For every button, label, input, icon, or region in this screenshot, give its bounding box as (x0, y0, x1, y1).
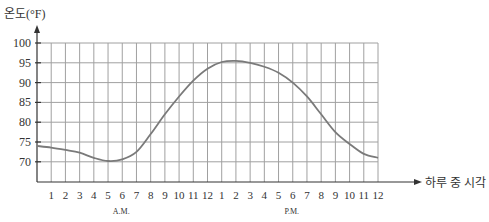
svg-text:90: 90 (19, 76, 31, 90)
svg-text:6: 6 (290, 189, 296, 201)
grid-lines (37, 43, 378, 182)
svg-text:80: 80 (19, 115, 31, 129)
svg-text:11: 11 (358, 189, 369, 201)
svg-text:5: 5 (105, 189, 111, 201)
svg-text:3: 3 (77, 189, 83, 201)
svg-text:10: 10 (174, 189, 186, 201)
y-axis-label: 온도(°F) (4, 7, 45, 21)
svg-text:11: 11 (188, 189, 199, 201)
svg-text:75: 75 (19, 135, 31, 149)
svg-text:1: 1 (219, 189, 225, 201)
svg-text:9: 9 (333, 189, 339, 201)
svg-text:70: 70 (19, 155, 31, 169)
temperature-chart: 7075808590951001234567891011121234567891… (0, 0, 489, 222)
svg-text:8: 8 (148, 189, 154, 201)
svg-text:7: 7 (134, 189, 140, 201)
x-axis-label: 하루 중 시각 (425, 176, 486, 190)
svg-text:A.M.: A.M. (113, 207, 130, 216)
svg-text:85: 85 (19, 95, 31, 109)
svg-text:4: 4 (91, 189, 97, 201)
svg-text:2: 2 (233, 189, 239, 201)
svg-text:4: 4 (262, 189, 268, 201)
svg-text:95: 95 (19, 56, 31, 70)
svg-text:1: 1 (48, 189, 54, 201)
svg-text:10: 10 (344, 189, 356, 201)
svg-text:8: 8 (318, 189, 324, 201)
svg-text:P.M.: P.M. (284, 207, 299, 216)
svg-text:12: 12 (202, 189, 213, 201)
svg-text:7: 7 (304, 189, 310, 201)
svg-text:3: 3 (247, 189, 253, 201)
svg-text:2: 2 (63, 189, 69, 201)
chart-canvas: 7075808590951001234567891011121234567891… (0, 0, 489, 222)
svg-text:6: 6 (120, 189, 126, 201)
svg-text:9: 9 (162, 189, 168, 201)
svg-text:100: 100 (13, 36, 31, 50)
svg-text:5: 5 (276, 189, 282, 201)
svg-text:12: 12 (373, 189, 384, 201)
